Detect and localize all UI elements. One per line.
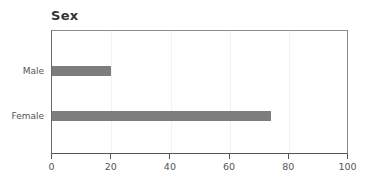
gridline (289, 31, 290, 153)
gridline (111, 31, 112, 153)
bar-female (52, 111, 271, 121)
chart-title: Sex (51, 8, 78, 23)
gridline (171, 31, 172, 153)
x-tick (288, 154, 289, 159)
x-tick (110, 154, 111, 159)
gridline (230, 31, 231, 153)
x-tick-label: 60 (223, 161, 235, 172)
x-tick-label: 100 (338, 161, 356, 172)
x-tick (347, 154, 348, 159)
x-tick (169, 154, 170, 159)
x-tick-label: 80 (282, 161, 294, 172)
plot-area (51, 30, 348, 154)
x-tick-label: 20 (105, 161, 117, 172)
x-tick-label: 40 (164, 161, 176, 172)
category-label-female: Female (11, 111, 44, 121)
x-tick (229, 154, 230, 159)
x-tick-label: 0 (48, 161, 54, 172)
category-label-male: Male (23, 66, 44, 76)
bar-male (52, 66, 111, 76)
x-tick (51, 154, 52, 159)
